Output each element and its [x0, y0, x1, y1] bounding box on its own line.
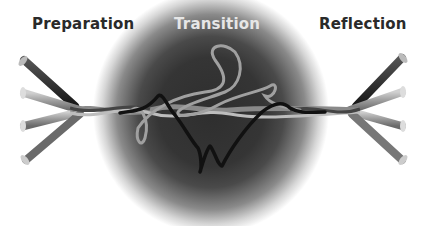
grey-loop-strand [130, 46, 300, 143]
strands-illustration [0, 0, 422, 226]
transition-diagram: Preparation Transition Reflection [0, 0, 422, 226]
